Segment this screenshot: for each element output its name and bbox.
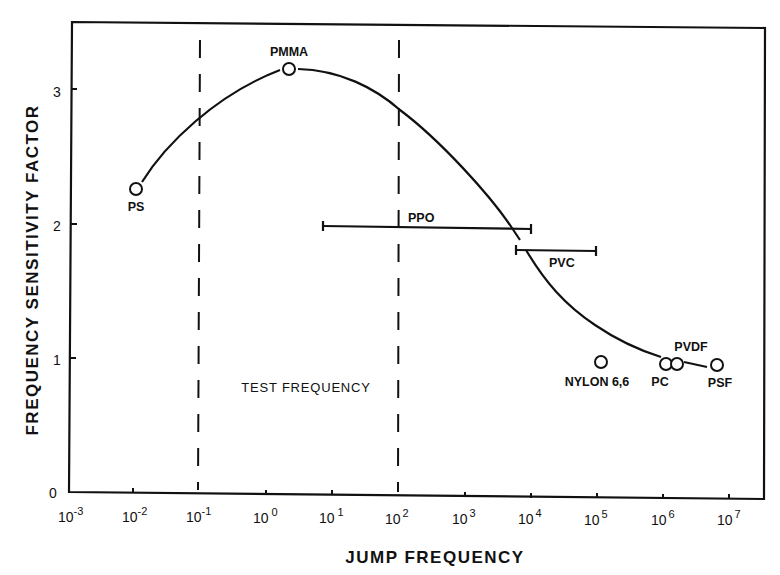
x-tick-1e-2: 10-2: [122, 505, 147, 525]
chart-canvas: 3 2 1 0 10-3 10-2 10-1 100 101 102 103 1…: [0, 0, 780, 575]
point-psf: [711, 359, 723, 371]
x-tick-1e4: 104: [518, 507, 542, 527]
point-pvdf: [671, 358, 683, 370]
y-tick-labels: 3 2 1 0: [49, 84, 61, 501]
pvc-label: PVC: [549, 256, 575, 270]
y-axis-title: FREQUENCY SENSITIVITY FACTOR: [23, 104, 42, 435]
pvdf-label: PVDF: [674, 340, 708, 354]
pvdf-psf-connector: [684, 362, 707, 367]
test-frequency-label: TEST FREQUENCY: [241, 380, 370, 395]
y-tick-2: 2: [53, 218, 61, 234]
x-tick-1e-3: 10-3: [58, 505, 83, 525]
x-tick-1e3: 103: [452, 507, 476, 527]
ps-label: PS: [128, 200, 145, 214]
x-tick-1e7: 107: [717, 508, 741, 528]
dashed-line-1e-1: [198, 40, 200, 490]
fitted-curve: [142, 69, 661, 357]
x-tick-1e5: 105: [584, 508, 608, 528]
x-tick-1e0: 100: [253, 506, 278, 526]
axes-box: [69, 22, 765, 499]
x-tick-1e6: 106: [651, 508, 675, 528]
plot-frame: [69, 22, 765, 499]
pc-label: PC: [651, 375, 668, 389]
x-axis-title: JUMP FREQUENCY: [345, 548, 524, 567]
y-tick-1: 1: [53, 352, 61, 368]
x-tick-1e1: 101: [319, 506, 344, 526]
psf-label: PSF: [708, 376, 733, 390]
x-tick-1e2: 102: [385, 507, 409, 527]
y-tick-0: 0: [49, 485, 57, 501]
point-pmma: [283, 63, 295, 75]
test-frequency-bounds: [198, 40, 399, 492]
y-tick-3: 3: [53, 84, 61, 100]
x-tick-1e-1: 10-1: [186, 505, 211, 525]
point-ps: [130, 183, 142, 195]
pmma-label: PMMA: [270, 45, 308, 59]
x-tick-labels: 10-3 10-2 10-1 100 101 102 103 104 105 1…: [58, 505, 741, 528]
ppo-label: PPO: [408, 211, 435, 225]
nylon-label: NYLON 6,6: [565, 375, 630, 389]
point-nylon: [595, 356, 607, 368]
